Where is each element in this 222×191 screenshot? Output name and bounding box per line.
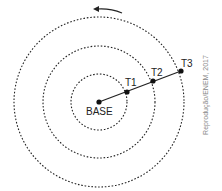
image-credit: Reprodução/ENEM, 2017 [202,55,209,135]
t1-point [124,89,129,94]
t2-point [150,78,155,83]
arrowhead-icon [93,6,99,12]
t1-label: T1 [125,77,137,88]
base-label: BASE [86,106,113,117]
rotation-arrow-icon [97,9,122,13]
t3-point [178,68,183,73]
orbit-diagram: BASE T1 T2 T3 [0,0,222,191]
base-point [96,99,101,104]
radial-line [99,71,181,102]
t2-label: T2 [151,67,163,78]
t3-label: T3 [181,58,193,69]
